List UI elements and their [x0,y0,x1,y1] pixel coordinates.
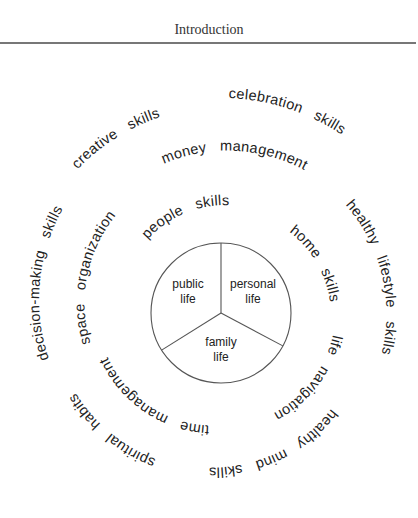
skill-phrase-inner: home skills [287,222,343,303]
life-areas-pie: publiclifepersonallifefamilylife [151,243,291,383]
skill-phrase-inner: people skills [138,192,229,242]
skill-phrase-middle: healthy lifestyle skills [343,196,399,356]
skill-phrase-middle: money management [159,138,311,173]
skill-phrase-outer: creative skills [68,104,162,171]
life-skills-diagram: publiclifepersonallifefamilylife people … [0,0,418,518]
skills-rings: people skillshome skillslife navigationt… [26,85,400,481]
skill-phrase-middle: decision-making skills [26,203,66,363]
pie-segment-label: personallife [230,277,276,306]
skill-phrase-outer: celebration skills [228,85,349,137]
pie-segment-label: familylife [205,335,236,364]
pie-segment-label: publiclife [172,277,203,306]
skill-phrase-middle: healthy mind skills [209,407,342,481]
skill-phrase-inner: space organization [71,207,118,346]
skill-phrase-inner: time management [96,355,210,438]
skill-phrase-inner: life navigation [272,334,346,424]
